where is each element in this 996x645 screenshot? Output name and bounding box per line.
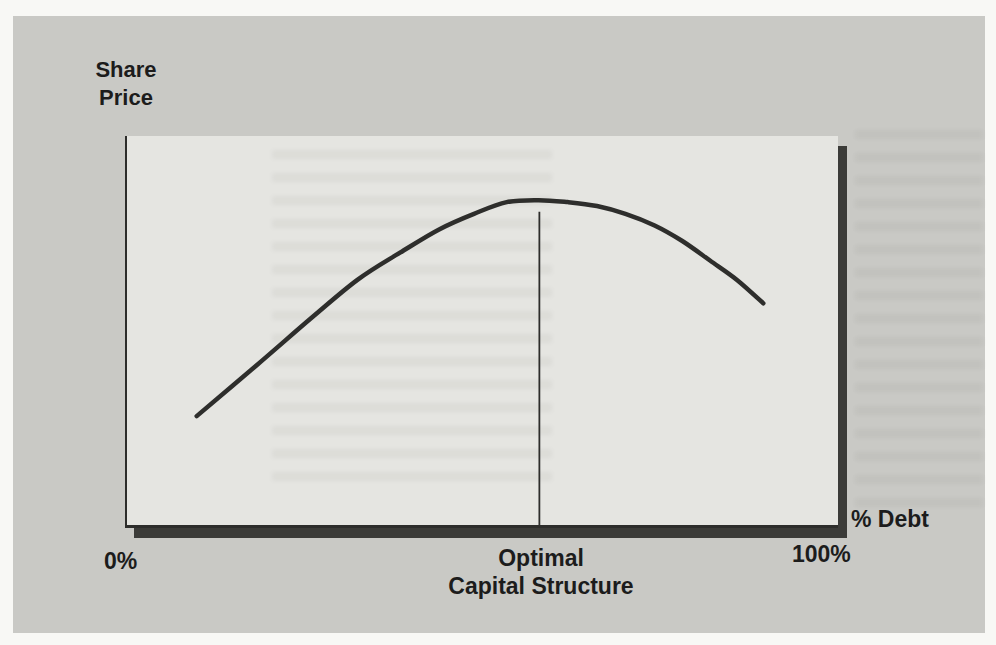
scan-bleed-through	[855, 130, 983, 510]
y-axis-label: Share Price	[64, 56, 188, 112]
x-tick-optimal-line1: Optimal	[391, 544, 691, 572]
plot-area	[125, 136, 838, 528]
x-tick-0: 0%	[104, 548, 137, 575]
x-tick-100: 100%	[792, 541, 851, 568]
x-tick-optimal: Optimal Capital Structure	[391, 544, 691, 600]
x-tick-optimal-line2: Capital Structure	[391, 572, 691, 600]
figure-panel: Share Price 0% Optimal Capital Structure…	[13, 16, 985, 633]
share-price-curve-canvas	[127, 136, 838, 525]
y-axis-label-line1: Share	[64, 56, 188, 84]
scanned-figure-page: Share Price 0% Optimal Capital Structure…	[0, 0, 996, 645]
x-axis-label: % Debt	[851, 506, 929, 533]
share-price-curve	[197, 200, 764, 416]
y-axis-label-line2: Price	[64, 84, 188, 112]
